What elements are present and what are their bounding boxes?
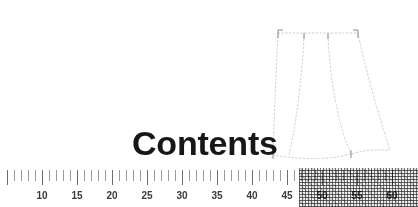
ruler-minor-tick xyxy=(224,170,225,181)
ruler-minor-tick xyxy=(196,170,197,181)
ruler-minor-tick xyxy=(63,170,64,181)
ruler-minor-tick xyxy=(56,170,57,181)
ruler-minor-tick xyxy=(105,170,106,181)
ruler-minor-tick xyxy=(189,170,190,181)
ruler-minor-tick xyxy=(238,170,239,181)
ruler-minor-tick xyxy=(294,170,295,181)
ruler-minor-tick xyxy=(203,170,204,181)
ruler-major-tick xyxy=(217,170,218,185)
ruler-minor-tick xyxy=(266,170,267,181)
ruler-minor-tick xyxy=(91,170,92,181)
ruler-minor-tick xyxy=(133,170,134,181)
ruler-minor-tick xyxy=(84,170,85,181)
page-title: Contents xyxy=(132,124,278,162)
pattern-right-seam xyxy=(358,33,390,150)
ruler-major-tick xyxy=(287,170,288,185)
ruler-label: 35 xyxy=(211,189,222,203)
ruler-minor-tick xyxy=(35,170,36,181)
ruler-minor-tick xyxy=(21,170,22,181)
ruler-label: 30 xyxy=(176,189,187,203)
ruler-minor-tick xyxy=(140,170,141,181)
ruler-minor-tick xyxy=(119,170,120,181)
ruler-minor-tick xyxy=(259,170,260,181)
skirt-pattern-illustration xyxy=(262,22,402,164)
ruler: 1015202530354045505560 xyxy=(0,168,418,207)
ruler-minor-tick xyxy=(28,170,29,181)
contents-page: Contents 1015202530354045505560 xyxy=(0,0,418,207)
ruler-minor-tick xyxy=(161,170,162,181)
pattern-inner-seam-right xyxy=(328,36,351,154)
ruler-minor-tick xyxy=(175,170,176,181)
ruler-major-tick xyxy=(252,170,253,185)
ruler-minor-tick xyxy=(210,170,211,181)
ruler-minor-tick xyxy=(14,170,15,181)
ruler-minor-tick xyxy=(168,170,169,181)
skirt-pattern-svg xyxy=(262,22,402,164)
ruler-minor-tick xyxy=(245,170,246,181)
ruler-major-tick xyxy=(112,170,113,185)
ruler-minor-tick xyxy=(126,170,127,181)
ruler-major-tick xyxy=(147,170,148,185)
ruler-minor-tick xyxy=(49,170,50,181)
ruler-major-tick xyxy=(182,170,183,185)
ruler-minor-tick xyxy=(70,170,71,181)
ruler-label: 40 xyxy=(246,189,257,203)
pattern-inner-seam-left xyxy=(289,36,304,155)
ruler-label: 25 xyxy=(141,189,152,203)
ruler-minor-tick xyxy=(231,170,232,181)
halftone-dither-overlay xyxy=(299,168,418,207)
ruler-label: 15 xyxy=(71,189,82,203)
ruler-major-tick xyxy=(77,170,78,185)
ruler-minor-tick xyxy=(154,170,155,181)
ruler-major-tick xyxy=(42,170,43,185)
ruler-minor-tick xyxy=(280,170,281,181)
ruler-label: 20 xyxy=(106,189,117,203)
ruler-major-tick xyxy=(7,170,8,185)
ruler-minor-tick xyxy=(98,170,99,181)
ruler-label: 10 xyxy=(36,189,47,203)
ruler-minor-tick xyxy=(273,170,274,181)
pattern-hem-line xyxy=(273,150,390,159)
ruler-label: 45 xyxy=(281,189,292,203)
